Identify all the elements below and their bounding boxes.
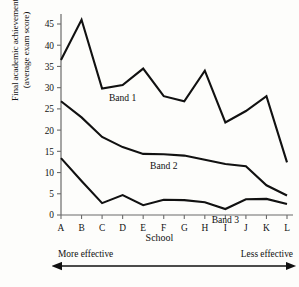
- y-axis-tick-label: 25: [45, 104, 55, 114]
- y-axis-tick-label: 30: [45, 83, 55, 93]
- series-label-band-3: Band 3: [212, 214, 240, 225]
- series-label-band-2: Band 2: [150, 160, 178, 171]
- y-axis-tick-label: 5: [49, 189, 54, 199]
- y-axis-tick-label: 0: [49, 210, 54, 220]
- x-axis-title: School: [20, 232, 299, 243]
- series-line-band-1: [61, 20, 287, 163]
- chart-figure: Final academic achievement (average exam…: [0, 0, 299, 287]
- y-axis-tick-label: 20: [45, 126, 55, 136]
- y-axis-tick-label: 10: [45, 168, 55, 178]
- line-chart-plot: 051015202530354045ABCDEFGHIJKLBand 1Band…: [0, 0, 299, 287]
- series-line-band-2: [61, 101, 287, 195]
- y-axis-tick-label: 40: [45, 41, 55, 51]
- y-axis-tick-label: 15: [45, 147, 55, 157]
- series-label-band-1: Band 1: [109, 92, 137, 103]
- effectiveness-arrow: [0, 258, 299, 280]
- y-axis-tick-label: 35: [45, 62, 55, 72]
- y-axis-tick-label: 45: [45, 19, 55, 29]
